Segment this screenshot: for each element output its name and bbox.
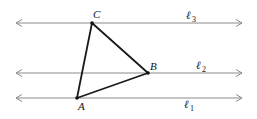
- label-l1: ℓ: [184, 98, 189, 110]
- label-b: B: [150, 60, 157, 72]
- line-l3: [16, 20, 242, 27]
- line-l1: [16, 95, 242, 102]
- label-l2-subscript: 2: [202, 65, 206, 74]
- line-l2: [16, 70, 242, 77]
- label-l2: ℓ: [196, 59, 201, 71]
- label-l1-subscript: 1: [190, 104, 194, 113]
- label-l3-subscript: 3: [192, 15, 196, 24]
- parallel-lines-triangle-diagram: A B C ℓ 3 ℓ 2 ℓ 1: [0, 0, 257, 119]
- label-c: C: [93, 8, 101, 20]
- triangle-abc: [77, 23, 148, 98]
- label-a: A: [77, 100, 85, 112]
- label-l3: ℓ: [186, 9, 191, 21]
- point-c: [90, 21, 94, 25]
